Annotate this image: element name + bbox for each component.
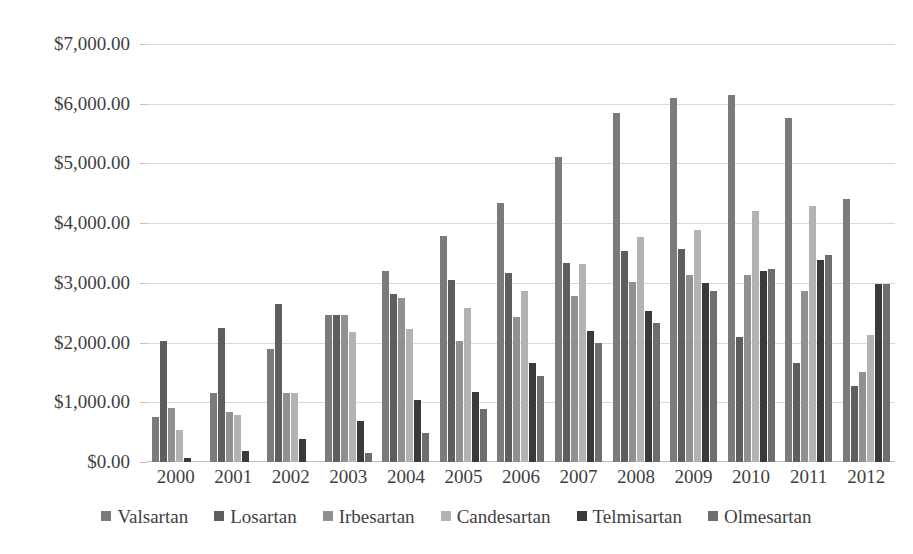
bar[interactable] — [234, 415, 241, 462]
legend-swatch-icon — [323, 511, 333, 521]
bar[interactable] — [160, 341, 167, 462]
bar[interactable] — [793, 363, 800, 462]
bar[interactable] — [595, 343, 602, 462]
bar[interactable] — [152, 417, 159, 462]
bar[interactable] — [563, 263, 570, 462]
y-axis-label: $4,000.00 — [54, 213, 130, 232]
bar[interactable] — [702, 283, 709, 462]
y-axis-tick — [140, 462, 147, 463]
bar[interactable] — [859, 372, 866, 462]
bar[interactable] — [448, 280, 455, 462]
legend-item[interactable]: Candesartan — [441, 507, 551, 526]
bar[interactable] — [472, 392, 479, 462]
bar[interactable] — [398, 298, 405, 462]
bar[interactable] — [440, 236, 447, 462]
bar[interactable] — [210, 393, 217, 462]
bar[interactable] — [456, 341, 463, 462]
bar[interactable] — [768, 269, 775, 462]
bar[interactable] — [710, 291, 717, 462]
bar[interactable] — [349, 332, 356, 462]
bar[interactable] — [521, 291, 528, 462]
bar[interactable] — [752, 211, 759, 462]
bar[interactable] — [809, 206, 816, 462]
bar[interactable] — [226, 412, 233, 462]
bar[interactable] — [242, 451, 249, 462]
bar[interactable] — [843, 199, 850, 462]
bar[interactable] — [184, 458, 191, 462]
bar[interactable] — [678, 249, 685, 462]
bar[interactable] — [817, 260, 824, 462]
x-axis-label: 2012 — [837, 464, 895, 494]
bar[interactable] — [728, 95, 735, 462]
bar[interactable] — [629, 282, 636, 462]
bar[interactable] — [785, 118, 792, 462]
bar[interactable] — [275, 304, 282, 462]
legend-item[interactable]: Irbesartan — [323, 507, 415, 526]
plot-area — [147, 44, 895, 462]
bar[interactable] — [267, 349, 274, 462]
bar[interactable] — [464, 308, 471, 462]
bar[interactable] — [365, 453, 372, 462]
bar[interactable] — [497, 203, 504, 462]
bar-group — [435, 44, 493, 462]
y-axis-tick — [140, 44, 147, 45]
bar[interactable] — [529, 363, 536, 462]
bar[interactable] — [883, 284, 890, 462]
bar[interactable] — [571, 296, 578, 462]
x-axis-label: 2005 — [435, 464, 493, 494]
bar[interactable] — [851, 386, 858, 462]
bar[interactable] — [637, 237, 644, 462]
bar[interactable] — [825, 255, 832, 462]
y-axis-tick — [140, 402, 147, 403]
bar[interactable] — [736, 337, 743, 462]
bar[interactable] — [505, 273, 512, 462]
bar[interactable] — [513, 317, 520, 462]
y-axis-tick — [140, 223, 147, 224]
bar[interactable] — [621, 251, 628, 462]
bar[interactable] — [744, 275, 751, 462]
bar[interactable] — [176, 430, 183, 462]
bar[interactable] — [333, 315, 340, 462]
bar[interactable] — [168, 408, 175, 462]
bar[interactable] — [218, 328, 225, 462]
legend-swatch-icon — [708, 511, 718, 521]
bar[interactable] — [283, 393, 290, 462]
bar[interactable] — [760, 271, 767, 462]
bar[interactable] — [694, 230, 701, 462]
y-axis-label: $3,000.00 — [54, 273, 130, 292]
bar[interactable] — [555, 157, 562, 462]
bar[interactable] — [390, 294, 397, 462]
legend-label: Irbesartan — [339, 507, 415, 526]
bar[interactable] — [537, 376, 544, 462]
legend-item[interactable]: Valsartan — [101, 507, 188, 526]
bar[interactable] — [867, 335, 874, 462]
bar[interactable] — [299, 439, 306, 462]
bar[interactable] — [686, 275, 693, 462]
bar[interactable] — [414, 400, 421, 462]
bar[interactable] — [382, 271, 389, 462]
bar-group — [722, 44, 780, 462]
bar[interactable] — [291, 393, 298, 462]
legend-item[interactable]: Telmisartan — [577, 507, 682, 526]
x-axis-label: 2008 — [607, 464, 665, 494]
bar[interactable] — [587, 331, 594, 462]
bar[interactable] — [341, 315, 348, 462]
bar[interactable] — [613, 113, 620, 462]
bar[interactable] — [670, 98, 677, 462]
bar[interactable] — [325, 315, 332, 462]
x-axis-label: 2003 — [320, 464, 378, 494]
bar[interactable] — [579, 264, 586, 462]
bar[interactable] — [480, 409, 487, 462]
legend-item[interactable]: Olmesartan — [708, 507, 812, 526]
bar[interactable] — [645, 311, 652, 462]
legend-item[interactable]: Losartan — [214, 507, 296, 526]
y-axis-tick — [140, 104, 147, 105]
bar[interactable] — [875, 284, 882, 462]
bar[interactable] — [357, 421, 364, 462]
x-axis-label: 2002 — [262, 464, 320, 494]
bar-group — [492, 44, 550, 462]
bar[interactable] — [406, 329, 413, 462]
bar[interactable] — [422, 433, 429, 462]
bar[interactable] — [801, 291, 808, 462]
bar[interactable] — [653, 323, 660, 462]
